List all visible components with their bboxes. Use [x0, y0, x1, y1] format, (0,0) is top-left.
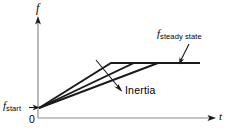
frequency-ramp-figure: f t 0 fstart fsteady state Inertia [0, 0, 229, 136]
label-f-steady-state: fsteady state [157, 28, 202, 39]
origin-label: 0 [29, 114, 35, 125]
ramp-curve-medium-inertia [39, 63, 200, 108]
axis-label-x: t [219, 111, 222, 122]
label-f-start: fstart [3, 100, 21, 111]
f-steady-leader-line [181, 44, 190, 61]
label-inertia: Inertia [125, 85, 156, 96]
axis-label-y: f [36, 2, 39, 14]
f-steady-subscript: steady state [160, 32, 202, 41]
inertia-leader-arrowhead [114, 84, 123, 92]
f-start-subscript: start [6, 104, 21, 113]
ramp-curves-group [39, 63, 200, 108]
